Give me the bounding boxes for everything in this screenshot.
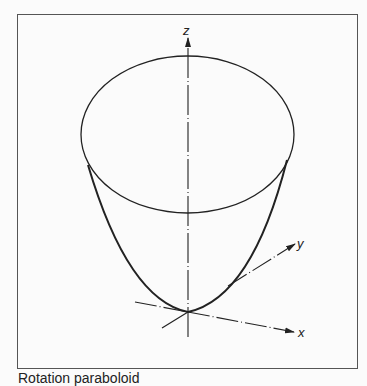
y-axis-label: y: [297, 237, 304, 250]
y-axis: [228, 244, 295, 286]
z-axis-label: z: [183, 24, 190, 37]
x-axis-label: x: [298, 326, 305, 339]
paraboloid-left-branch: [88, 165, 188, 312]
x-axis-back: [135, 302, 188, 312]
figure-caption: Rotation paraboloid: [18, 371, 139, 385]
y-axis-front: [162, 312, 188, 328]
x-axis: [188, 312, 294, 332]
